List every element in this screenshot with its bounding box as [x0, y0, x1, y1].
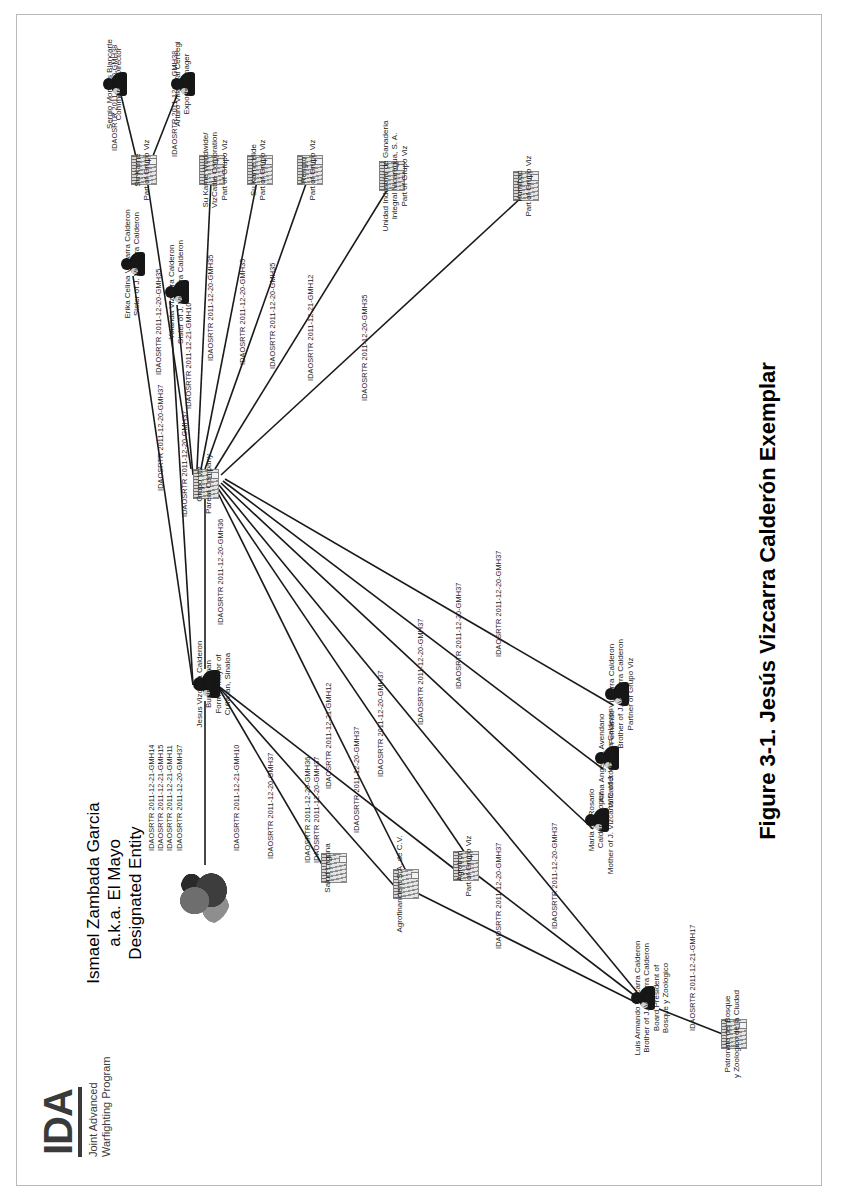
edge-label-grupoviz-agrotron: IDAOSRTR 2011-12-21-GMH12: [325, 683, 334, 789]
node-label: Maria del RosarioCalderon LopezMother of…: [587, 766, 615, 874]
edge-label-grupoviz-rengro: IDAOSRTR 2011-12-20-GMH35: [269, 263, 278, 369]
node-label: Agrofinanciera S.A. de C.V.: [395, 835, 404, 932]
node-label: Su KarnePart of Grupo Viz: [133, 139, 152, 200]
edge-label-grupoviz-sukhide: IDAOSRTR 2011-12-20-GMH35: [239, 259, 248, 365]
landscape-figure-rotation: IDA Joint Advanced Warfighting Program I…: [25, 21, 815, 1181]
edge-label-grupoviz-yolanda: IDAOSRTR 2011-12-21-GMH10: [185, 303, 194, 409]
edge-grupoviz-agrotron: [217, 487, 465, 853]
node-label: Sergio Morales BlancarteCommercial Direc…: [105, 39, 124, 129]
edge-label-grupoviz-luis: IDAOSRTR 2011-12-20-GMH37: [377, 671, 386, 777]
edge-grupoviz-humibac: [221, 196, 523, 475]
edge-label-jesus-grupoviz: IDAOSRTR 2011-12-20-GMH36: [217, 519, 226, 625]
node-label: Patronato del Bosquey Zoologico de la Ci…: [723, 990, 742, 1078]
edge-label-jesus-agrotron: IDAOSRTR 2011-12-20-GMH36 IDAOSRTR 2011-…: [303, 757, 321, 863]
edge-label-grupoviz-sukww: IDAOSRTR 2011-12-20-GMH35: [207, 255, 216, 361]
edge-agrofin-luis: [417, 893, 637, 1003]
edge-grupoviz-rengro: [205, 181, 307, 469]
edge-label-grupoviz-sukarne: IDAOSRTR 2011-12-20-GMH35: [155, 269, 164, 375]
edge-grupoviz-maria: [221, 483, 593, 829]
edge-label-grupoviz-humibac: IDAOSRTR 2011-12-20-GMH35: [361, 295, 370, 401]
edge-label-agrotron-luis: IDAOSRTR 2011-12-20-GMH37: [551, 823, 560, 929]
edge-label-jesus-salud: IDAOSRTR 2011-12-21-GMH10: [233, 745, 242, 851]
edge-label-grupoviz-unidad: IDAOSRTR 2011-12-21-GMH12: [307, 275, 316, 381]
edge-label-agrofin-luis: IDAOSRTR 2011-12-20-GMH37: [495, 843, 504, 949]
node-label: Luis Armando Vizcarra CalderonBrother of…: [633, 940, 670, 1055]
edge-label-jesus-agrofin: IDAOSRTR 2011-12-20-GMH37: [267, 753, 276, 859]
node-label: Erika Celina Vizcarra CalderonSister of …: [123, 209, 142, 318]
figure-canvas: IDA Joint Advanced Warfighting Program I…: [25, 21, 815, 1181]
edge-label-grupoviz-agrofin: IDAOSRTR 2011-12-20-GMH37: [353, 727, 362, 833]
document-page: IDA Joint Advanced Warfighting Program I…: [0, 0, 841, 1202]
node-label: HumibacPart of Grupo Viz: [515, 155, 534, 216]
node-label: Salud Laguna: [323, 843, 332, 892]
node-label: Grupo VizParent Company: [195, 454, 214, 514]
node-label: Su Karne Worldwide/VizCattle Corporation…: [201, 132, 229, 208]
edge-grupoviz-alma: [223, 481, 603, 769]
edge-label-grupoviz-maria: IDAOSRTR 2011-12-20-GMH37: [417, 619, 426, 725]
kingpin-photo-icon: [179, 867, 231, 925]
edge-label-zambada-jesus: IDAOSRTR 2011-12-21-GMH14 IDAOSRTR 2011-…: [147, 745, 184, 851]
edge-label-grupoviz-fernando: IDAOSRTR 2011-12-20-GMH37: [495, 551, 504, 657]
node-label: Su Karne HidePart of Grupo Viz: [249, 139, 268, 200]
edge-label-jesus-erika: IDAOSRTR 2011-12-20-GMH37: [157, 385, 166, 491]
edge-grupoviz-luis: [219, 485, 641, 997]
figure-caption: Figure 3-1. Jesús Vizcarra Calderón Exem…: [755, 21, 781, 1181]
node-label: RengroPart of Grupo Viz: [299, 139, 318, 200]
node-label: AgrotronPart of Grupo Viz: [455, 835, 474, 896]
edge-label-jesus-yolanda: IDAOSRTR 2011-12-20-GMH37: [181, 411, 190, 517]
edge-label-grupoviz-alma: IDAOSRTR 2011-12-20-GMH37: [455, 583, 464, 689]
edge-label-luis-patronato: IDAOSRTR 2011-12-21-GMH17: [689, 925, 698, 1031]
node-label: Yolanda Vizcarra CalderonSister of J. Vi…: [167, 240, 186, 344]
node-label: Unidad Industrial de GanaderiaIntegral N…: [381, 121, 409, 232]
node-label: Arturo Villarreal CereegiExports Manager: [173, 41, 192, 126]
node-label: Jesus Vizcarra CalderonBusinessmanFormer…: [195, 640, 232, 727]
